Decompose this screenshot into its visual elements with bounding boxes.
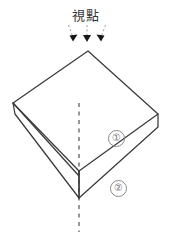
top-face-outline — [13, 51, 158, 171]
left-inner-fold-edge — [13, 103, 79, 176]
viewpoint-box-diagram: 視點 ① ② — [0, 0, 172, 247]
left-side-face — [13, 103, 79, 198]
box-line-drawing — [0, 0, 172, 247]
callout-marker-2: ② — [110, 180, 127, 197]
box-edges — [13, 51, 158, 198]
viewpoint-arrows — [69, 25, 106, 42]
arrow-left-head — [70, 35, 78, 42]
arrow-center-head — [83, 35, 91, 42]
callout-marker-1: ① — [108, 130, 125, 147]
arrow-right-head — [97, 35, 105, 42]
arrow-right-shaft — [102, 25, 106, 36]
arrow-left-shaft — [69, 25, 73, 36]
